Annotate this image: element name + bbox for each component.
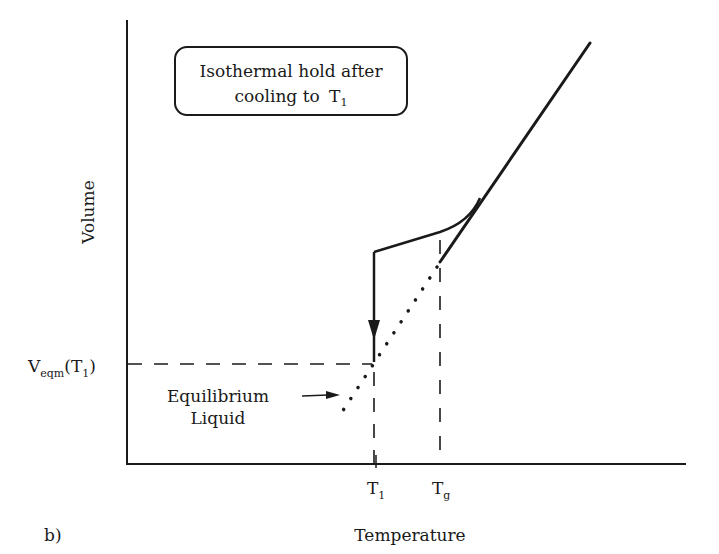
down-arrow-icon xyxy=(368,320,380,340)
y-axis-label: Volume xyxy=(78,180,98,245)
right-arrow-icon xyxy=(326,391,340,399)
equilibrium-label-line-1: Equilibrium xyxy=(167,386,269,406)
annotation-line-2: cooling to T1 xyxy=(235,86,348,109)
tg-label: Tg xyxy=(432,478,450,502)
panel-label: b) xyxy=(44,525,62,545)
equilibrium-liquid-dotted xyxy=(342,267,437,412)
t1-label: T1 xyxy=(367,478,385,502)
equilibrium-label-line-2: Liquid xyxy=(191,408,246,428)
annotation-line-1: Isothermal hold after xyxy=(199,61,383,81)
veqm-label: Veqm(T1) xyxy=(27,356,96,380)
equilibrium-pointer-line xyxy=(302,395,328,396)
liquid-line xyxy=(440,43,590,262)
x-axis-label: Temperature xyxy=(354,525,465,545)
volume-temperature-diagram: Isothermal hold after cooling to T1 Veqm… xyxy=(0,0,719,554)
